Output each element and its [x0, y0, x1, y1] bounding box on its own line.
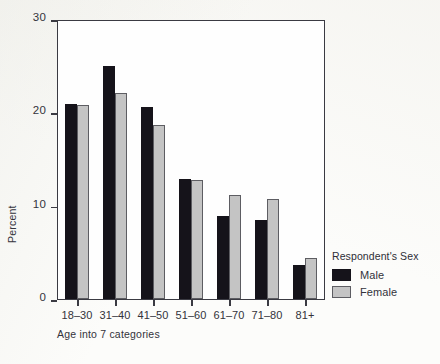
x-axis-tick-mark — [191, 300, 193, 306]
x-axis-tick-label: 41–50 — [137, 309, 168, 321]
x-axis-title: Age into 7 categories — [57, 328, 160, 340]
legend-title: Respondent's Sex — [332, 250, 436, 262]
female-swatch — [332, 286, 351, 298]
x-axis-tick-label: 31–40 — [99, 309, 130, 321]
x-axis-tick-mark — [267, 300, 269, 306]
y-axis: 0102030 — [0, 20, 57, 300]
bar-male — [217, 216, 229, 299]
x-axis-tick-label: 81+ — [296, 309, 315, 321]
bar-female — [267, 199, 279, 299]
y-axis-title: Percent — [6, 205, 18, 243]
y-axis-tick-label: 30 — [33, 11, 46, 23]
bar-group — [255, 21, 279, 299]
legend-item: Male — [332, 269, 436, 281]
bar-female — [115, 93, 127, 299]
x-axis-tick-label: 18–30 — [61, 309, 92, 321]
legend-item-label: Male — [360, 269, 384, 281]
bar-male — [141, 107, 153, 299]
bar-male — [255, 220, 267, 299]
bar-male — [103, 66, 115, 299]
x-axis-tick-label: 71–80 — [251, 309, 282, 321]
x-axis-tick-label: 61–70 — [213, 309, 244, 321]
bars-layer — [58, 21, 324, 299]
y-axis-tick-label: 10 — [33, 198, 46, 210]
x-axis-tick-mark — [77, 300, 79, 306]
legend-item: Female — [332, 286, 436, 298]
y-axis-tick-mark — [51, 300, 57, 302]
bar-group — [65, 21, 89, 299]
bar-group — [103, 21, 127, 299]
chart-page: 0102030 Percent 18–3031–4041–5051–6061–7… — [0, 0, 440, 364]
bar-group — [293, 21, 317, 299]
bar-female — [229, 195, 241, 299]
bar-male — [293, 265, 305, 299]
x-axis-tick-label: 51–60 — [175, 309, 206, 321]
y-axis-tick-label: 20 — [33, 104, 46, 116]
bar-group — [141, 21, 165, 299]
bar-female — [77, 105, 89, 299]
x-axis-tick-mark — [153, 300, 155, 306]
bar-female — [191, 180, 203, 299]
x-axis-labels: 18–3031–4041–5051–6061–7071–8081+ — [58, 309, 324, 325]
legend-item-label: Female — [360, 286, 397, 298]
y-axis-tick-label: 0 — [39, 291, 46, 303]
bar-group — [217, 21, 241, 299]
bar-group — [179, 21, 203, 299]
x-axis-tick-mark — [305, 300, 307, 306]
x-axis-tick-mark — [115, 300, 117, 306]
x-axis-tick-mark — [229, 300, 231, 306]
bar-male — [179, 179, 191, 299]
male-swatch — [332, 269, 351, 281]
bar-male — [65, 104, 77, 299]
legend: Respondent's Sex MaleFemale — [332, 250, 436, 303]
legend-items: MaleFemale — [332, 269, 436, 298]
bar-female — [153, 125, 165, 299]
bar-female — [305, 258, 317, 299]
